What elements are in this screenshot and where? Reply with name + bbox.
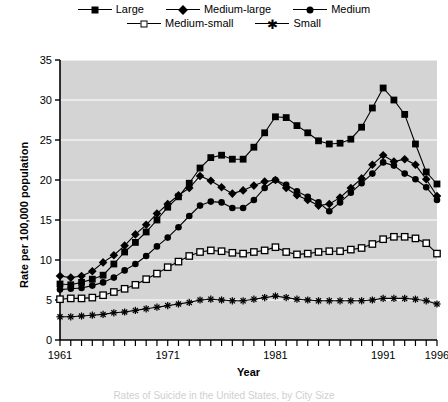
marker-filled-circle: [208, 198, 215, 205]
y-axis-tick-label: 20: [40, 174, 52, 186]
marker-filled-circle: [348, 190, 355, 197]
marker-open-square: [337, 248, 343, 254]
marker-filled-square: [261, 129, 268, 136]
y-axis-tick-label: 30: [40, 94, 52, 106]
marker-filled-square: [380, 85, 387, 92]
marker-star: [315, 297, 322, 304]
marker-filled-circle: [391, 162, 398, 169]
marker-star: [423, 297, 430, 304]
marker-open-square: [154, 270, 160, 276]
marker-star: [326, 297, 333, 304]
marker-open-square: [218, 248, 224, 254]
marker-filled-square: [358, 124, 365, 131]
marker-open-square: [412, 235, 418, 241]
marker-filled-square: [391, 97, 398, 104]
marker-filled-square: [143, 229, 150, 236]
marker-filled-square: [218, 152, 225, 159]
marker-open-square: [326, 248, 332, 254]
marker-star: [99, 311, 106, 318]
marker-filled-square: [89, 276, 96, 283]
x-axis-tick-label: 1961: [48, 349, 72, 361]
marker-filled-circle: [272, 177, 279, 184]
marker-open-square: [111, 289, 117, 295]
y-axis-tick-label: 5: [46, 294, 52, 306]
marker-open-square: [100, 292, 106, 298]
marker-filled-square: [401, 111, 408, 118]
y-axis-title: Rate per 100,000 population: [18, 142, 30, 288]
marker-open-square: [240, 250, 246, 256]
marker-star: [67, 313, 74, 320]
marker-star: [401, 295, 408, 302]
marker-filled-circle: [423, 184, 430, 191]
marker-filled-circle: [89, 282, 96, 289]
marker-filled-circle: [434, 197, 441, 204]
marker-filled-circle: [186, 213, 193, 220]
marker-filled-square: [229, 156, 236, 163]
marker-open-square: [197, 249, 203, 255]
marker-filled-circle: [132, 261, 139, 268]
marker-open-square: [208, 247, 214, 253]
marker-star: [121, 308, 128, 315]
marker-open-square: [358, 245, 364, 251]
marker-filled-square: [304, 129, 311, 136]
marker-filled-square: [132, 239, 139, 246]
marker-filled-circle: [412, 176, 419, 183]
marker-filled-square: [110, 261, 117, 268]
marker-filled-square: [207, 154, 214, 161]
marker-open-square: [380, 236, 386, 242]
y-axis-tick-label: 25: [40, 134, 52, 146]
marker-filled-square: [240, 156, 247, 163]
marker-open-square: [68, 295, 74, 301]
marker-filled-square: [337, 140, 344, 147]
marker-star: [164, 302, 171, 309]
marker-star: [283, 294, 290, 301]
marker-filled-circle: [57, 286, 64, 293]
marker-filled-circle: [358, 180, 365, 187]
x-axis-tick-label: 1981: [263, 349, 287, 361]
marker-star: [132, 307, 139, 314]
marker-open-square: [175, 258, 181, 264]
marker-star: [186, 299, 193, 306]
marker-filled-square: [347, 136, 354, 143]
marker-filled-square: [100, 272, 107, 279]
marker-star: [196, 296, 203, 303]
marker-open-square: [391, 234, 397, 240]
marker-filled-circle: [143, 253, 150, 260]
marker-open-square: [89, 294, 95, 300]
marker-star: [336, 297, 343, 304]
marker-star: [272, 292, 279, 299]
marker-open-square: [165, 264, 171, 270]
figure-suicide-rates-by-city-size: Large Medium-large Medium Medium-smal: [0, 0, 448, 402]
plot-area-container: 0510152025303519611971198119911996: [0, 0, 448, 402]
marker-open-square: [261, 247, 267, 253]
marker-open-square: [229, 250, 235, 256]
marker-filled-circle: [369, 170, 376, 177]
marker-star: [390, 295, 397, 302]
marker-filled-circle: [154, 243, 161, 250]
marker-star: [153, 304, 160, 311]
marker-star: [347, 297, 354, 304]
marker-filled-circle: [121, 267, 128, 274]
marker-open-square: [283, 249, 289, 255]
marker-open-square: [294, 251, 300, 257]
marker-filled-circle: [326, 208, 333, 215]
marker-open-square: [315, 249, 321, 255]
marker-star: [207, 296, 214, 303]
marker-filled-circle: [294, 188, 301, 195]
marker-star: [175, 300, 182, 307]
marker-open-square: [186, 253, 192, 259]
marker-filled-circle: [240, 205, 247, 212]
marker-filled-circle: [229, 205, 236, 212]
marker-filled-square: [369, 105, 376, 112]
marker-filled-circle: [304, 194, 311, 201]
marker-open-square: [143, 276, 149, 282]
marker-open-square: [121, 286, 127, 292]
marker-open-square: [251, 249, 257, 255]
marker-star: [218, 296, 225, 303]
marker-filled-circle: [380, 159, 387, 166]
marker-star: [110, 309, 117, 316]
marker-star: [293, 296, 300, 303]
marker-star: [412, 296, 419, 303]
marker-star: [143, 305, 150, 312]
marker-filled-circle: [261, 185, 268, 192]
